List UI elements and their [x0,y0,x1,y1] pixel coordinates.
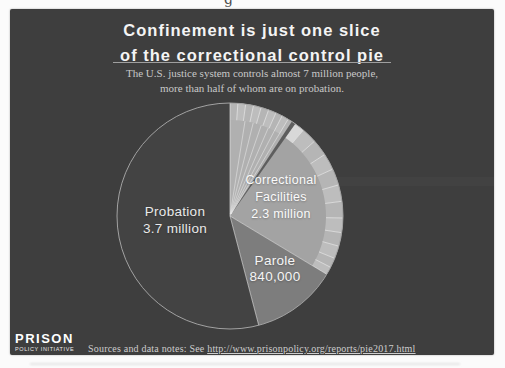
cut-off-text-fragment: g [224,0,233,7]
prison-policy-initiative-logo: PRISON POLICY INITIATIVE [15,331,74,352]
title-line-1: Confinement is just one slice [10,18,494,43]
sources-prefix-text: Sources and data notes: See [88,343,207,354]
scan-artifact [30,363,460,365]
page-title: Confinement is just one slice of the cor… [10,18,494,68]
sources-note: Sources and data notes: See http://www.p… [88,343,416,354]
ring-segment [325,201,343,218]
cf-label-line-2: Facilities [246,189,317,206]
parole-slice-label: Parole 840,000 [250,253,301,285]
subtitle-line-1: The U.S. justice system controls almost … [10,66,494,81]
logo-wordmark: PRISON [15,331,74,346]
parole-label-text: Parole [250,253,301,269]
title-line-2: of the correctional control pie [10,43,494,68]
scan-light-streak [334,177,494,186]
chart-subtitle: The U.S. justice system controls almost … [10,66,494,95]
probation-value-text: 3.7 million [143,221,207,238]
infographic-card: Confinement is just one slice of the cor… [10,9,494,355]
probation-slice-label: Probation 3.7 million [143,204,207,237]
scanned-page: g Confinement is just one slice of the c… [0,0,505,368]
title-divider [113,62,391,63]
subtitle-line-2: more than half of whom are on probation. [10,81,494,96]
parole-value-text: 840,000 [250,269,301,285]
correctional-facilities-slice-label: Correctional Facilities 2.3 million [246,172,317,223]
cf-label-line-1: Correctional [246,172,317,189]
logo-tagline: POLICY INITIATIVE [15,346,74,352]
sources-link[interactable]: http://www.prisonpolicy.org/reports/pie2… [207,343,415,354]
probation-label-text: Probation [143,204,207,221]
cf-value-text: 2.3 million [246,206,317,223]
